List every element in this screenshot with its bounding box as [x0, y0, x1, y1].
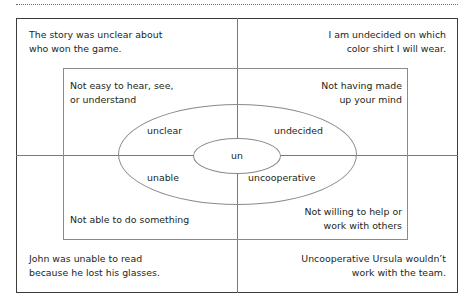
- definition-top-right: Not having made up your mind: [246, 79, 402, 106]
- example-sentence-top-right: I am undecided on which color shirt I wi…: [246, 28, 446, 55]
- word-bottom-left: unable: [147, 172, 179, 184]
- dotted-divider-icon: [16, 4, 458, 5]
- example-sentence-bottom-right: Uncooperative Ursula wouldn’t work with …: [246, 252, 446, 279]
- definition-top-left: Not easy to hear, see, or understand: [70, 79, 230, 106]
- example-sentence-bottom-left: John was unable to read because he lost …: [29, 252, 229, 279]
- word-top-left: unclear: [147, 125, 182, 137]
- definition-bottom-left: Not able to do something: [70, 213, 235, 227]
- word-bottom-right: uncooperative: [248, 172, 315, 184]
- word-top-right: undecided: [274, 125, 323, 137]
- diagram-canvas: The story was unclear about who won the …: [0, 0, 474, 304]
- root-word-label: un: [193, 150, 281, 161]
- example-sentence-top-left: The story was unclear about who won the …: [29, 28, 229, 55]
- definition-bottom-right: Not willing to help or work with others: [246, 205, 402, 232]
